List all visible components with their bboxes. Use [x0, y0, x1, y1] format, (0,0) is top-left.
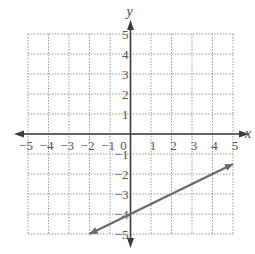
- x-axis-label: x: [244, 126, 252, 141]
- y-tick-label: 3: [122, 67, 129, 82]
- y-axis-label: y: [125, 4, 134, 19]
- x-tick-label: −2: [81, 138, 95, 153]
- coordinate-plane: −5−4−3−2−1012345−5−4−3−2−112345 x y: [0, 0, 255, 254]
- y-tick-label: 2: [122, 87, 129, 102]
- y-tick-label: 5: [122, 27, 129, 42]
- y-tick-label: −2: [115, 167, 129, 182]
- y-tick-label: 1: [122, 107, 129, 122]
- y-tick-label: −3: [115, 187, 129, 202]
- x-tick-label: −1: [101, 138, 115, 153]
- x-tick-label: 3: [191, 138, 198, 153]
- x-tick-label: 5: [232, 138, 239, 153]
- y-tick-label: −1: [115, 147, 129, 162]
- x-tick-label: −5: [19, 138, 33, 153]
- x-tick-label: 2: [170, 138, 177, 153]
- y-tick-label: −5: [115, 227, 129, 242]
- x-axis-left-arrow-icon: [14, 131, 24, 138]
- x-tick-label: −3: [60, 138, 74, 153]
- x-tick-label: 1: [150, 138, 157, 153]
- x-tick-label: 4: [211, 138, 218, 153]
- x-tick-label: −4: [40, 138, 54, 153]
- y-tick-label: 4: [122, 47, 129, 62]
